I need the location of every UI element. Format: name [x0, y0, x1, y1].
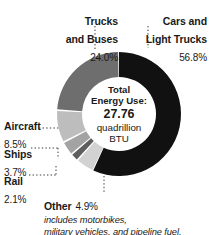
- label-ships-text: Ships: [4, 148, 32, 160]
- footnote-line-1: includes motorbikes,: [44, 215, 181, 226]
- donut-center-label: Total Energy Use: 27.76 quadrillion BTU: [84, 84, 154, 144]
- label-cars-and-light-trucks-line2: Light Trucks: [146, 33, 207, 45]
- center-unit-line-1: quadrillion: [84, 122, 154, 133]
- value-cars-and-light-trucks: 56.8%: [179, 52, 207, 63]
- center-unit-line-2: BTU: [84, 133, 154, 144]
- label-aircraft-text: Aircraft: [4, 120, 41, 132]
- label-rail-text: Rail: [4, 175, 23, 187]
- center-line-2: Energy Use:: [84, 95, 154, 106]
- value-rail: 2.1%: [4, 194, 26, 205]
- value-other: 4.9%: [76, 201, 98, 212]
- label-other-text: Other: [44, 200, 72, 212]
- value-trucks-and-buses: 24.0%: [90, 52, 118, 63]
- label-trucks-and-buses-line2: and Buses: [66, 33, 118, 45]
- label-other: Other4.9% includes motorbikes, military …: [44, 196, 181, 235]
- center-line-1: Total: [84, 84, 154, 95]
- donut-chart-figure: Trucks and Buses 24.0% Cars and Light Tr…: [0, 0, 209, 235]
- label-trucks-and-buses-line1: Trucks: [85, 15, 118, 27]
- footnote-line-2: military vehicles, and pipeline fuel.: [44, 227, 181, 235]
- label-trucks-and-buses: Trucks and Buses 24.0%: [56, 11, 118, 65]
- label-cars-and-light-trucks-line1: Cars and: [163, 15, 207, 27]
- center-total-value: 27.76: [84, 107, 154, 121]
- label-cars-and-light-trucks: Cars and Light Trucks 56.8%: [143, 11, 207, 65]
- label-rail: Rail 2.1%: [4, 171, 26, 207]
